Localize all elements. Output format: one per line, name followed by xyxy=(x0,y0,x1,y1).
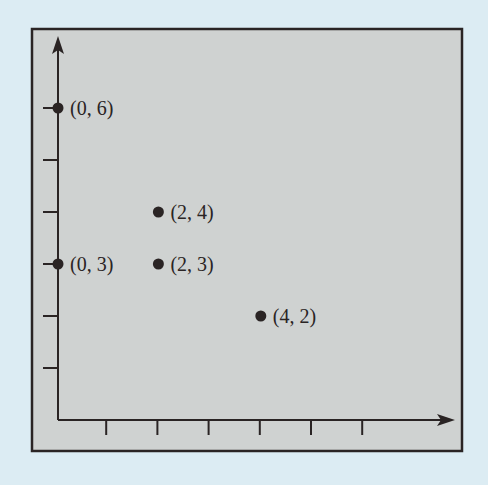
point-label: (2, 3) xyxy=(170,253,213,276)
point-marker-icon xyxy=(153,207,164,218)
point-marker-icon xyxy=(53,259,64,270)
point-marker-icon xyxy=(153,259,164,270)
scatter-chart: (0, 6)(2, 4)(0, 3)(2, 3)(4, 2) xyxy=(0,0,488,485)
point-label: (0, 3) xyxy=(70,253,113,276)
point-marker-icon xyxy=(255,311,266,322)
point-label: (2, 4) xyxy=(170,201,213,224)
chart-panel xyxy=(32,29,462,451)
point-marker-icon xyxy=(53,103,64,114)
point-label: (4, 2) xyxy=(273,305,316,328)
point-label: (0, 6) xyxy=(70,97,113,120)
